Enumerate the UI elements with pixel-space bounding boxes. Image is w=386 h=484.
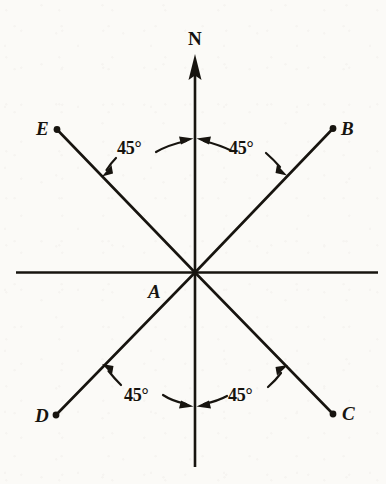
point-B-label: B bbox=[341, 119, 354, 138]
point-C-label: C bbox=[342, 404, 355, 423]
angle-arc-upper-right-arrow-ray bbox=[276, 165, 288, 176]
point-E-dot bbox=[54, 126, 61, 133]
angle-arc-lower-left-arrow-ray bbox=[102, 364, 114, 375]
ray-AC-line bbox=[195, 273, 333, 415]
angle-arc-lower-right-arrow-south bbox=[197, 401, 212, 409]
angle-arc-upper-right-arrow-north bbox=[197, 137, 212, 145]
angle-label-lower-right: 45° bbox=[228, 386, 253, 404]
point-C-dot bbox=[330, 411, 337, 418]
point-D-label: D bbox=[35, 406, 49, 425]
bearing-diagram: N E B A D C 45° 45° 45° 45° bbox=[0, 0, 386, 484]
angle-arc-lower-left-outer bbox=[109, 371, 122, 385]
ray-AB-line bbox=[195, 129, 333, 273]
angle-arc-lower-right-arrow-ray bbox=[276, 365, 289, 376]
angle-arc-upper-left-arrow-north bbox=[179, 137, 194, 145]
angle-label-upper-left: 45° bbox=[117, 139, 142, 157]
center-point-A-label: A bbox=[148, 282, 161, 301]
angle-arc-lower-left-arrow-south bbox=[179, 401, 194, 409]
point-B-dot bbox=[330, 125, 337, 132]
diagram-canvas bbox=[0, 0, 386, 484]
angle-arc-upper-right-outer bbox=[266, 153, 280, 167]
point-E-label: E bbox=[36, 119, 49, 138]
angle-arc-lower-right-outer bbox=[268, 373, 281, 387]
angle-label-upper-right: 45° bbox=[229, 139, 254, 157]
point-D-dot bbox=[53, 412, 60, 419]
north-label: N bbox=[188, 29, 202, 48]
angle-label-lower-left: 45° bbox=[124, 386, 149, 404]
